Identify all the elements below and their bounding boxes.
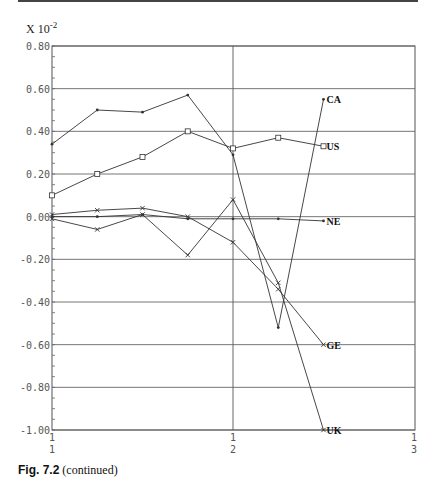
series-ne: NE	[51, 213, 341, 227]
series-line	[52, 200, 324, 430]
plot-frame	[52, 46, 415, 430]
axis-labels: 0.800.600.400.200.00-0.20-0.40-0.60-0.80…	[20, 20, 417, 455]
dot-marker	[96, 109, 99, 112]
series-us: US	[50, 129, 340, 198]
y-tick-label: 0.80	[26, 41, 50, 52]
dot-marker	[277, 217, 280, 220]
y-tick-label: 0.20	[26, 169, 50, 180]
x-tick-label-top: 1	[230, 432, 236, 443]
figure-caption: Fig. 7.2 (continued)	[18, 463, 118, 478]
x-tick-label-top: 1	[49, 432, 55, 443]
y-tick-label: -1.00	[20, 425, 50, 436]
series-layer: CAUSNEGEUK	[50, 94, 342, 436]
series-label-ca: CA	[327, 94, 342, 105]
grid	[52, 46, 415, 430]
dot-marker	[322, 220, 325, 223]
y-tick-label: -0.40	[20, 297, 50, 308]
line-chart: CAUSNEGEUK 0.800.600.400.200.00-0.20-0.4…	[0, 0, 435, 486]
series-label-uk: UK	[327, 425, 342, 436]
series-ca: CA	[51, 94, 342, 329]
x-tick-label-bottom: 2	[230, 444, 236, 455]
dot-marker	[51, 143, 54, 146]
dot-marker	[96, 215, 99, 218]
square-marker	[140, 154, 145, 159]
series-ge: GE	[50, 206, 341, 351]
dot-marker	[141, 111, 144, 114]
dot-marker	[322, 98, 325, 101]
y-tick-label: 0.40	[26, 126, 50, 137]
square-marker	[185, 129, 190, 134]
y-tick-label: -0.20	[20, 254, 50, 265]
dot-marker	[232, 217, 235, 220]
x-tick-label-bottom: 3	[411, 444, 417, 455]
series-uk: UK	[50, 197, 342, 436]
caption-number: Fig. 7.2	[18, 463, 59, 477]
square-marker	[276, 135, 281, 140]
y-tick-label: 0.60	[26, 84, 50, 95]
series-label-us: US	[327, 141, 340, 152]
square-marker	[95, 172, 100, 177]
square-marker	[321, 144, 326, 149]
dot-marker	[232, 153, 235, 156]
x-marker	[186, 253, 190, 257]
caption-text: (continued)	[59, 463, 117, 477]
series-line	[52, 131, 324, 195]
x-tick-label-bottom: 1	[49, 444, 55, 455]
dot-marker	[277, 326, 280, 329]
x-tick-label-top: 1	[411, 432, 417, 443]
y-tick-label: -0.80	[20, 382, 50, 393]
y-tick-label: -0.60	[20, 340, 50, 351]
series-label-ne: NE	[327, 216, 341, 227]
series-label-ge: GE	[327, 340, 342, 351]
scale-label: X 10-2	[26, 20, 57, 36]
square-marker	[50, 193, 55, 198]
x-marker	[276, 281, 280, 285]
y-tick-label: 0.00	[26, 212, 50, 223]
dot-marker	[186, 94, 189, 97]
square-marker	[231, 146, 236, 151]
